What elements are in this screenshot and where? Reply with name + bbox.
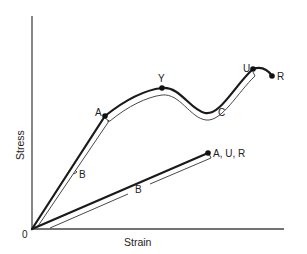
- label-b-brittle: B: [135, 184, 142, 195]
- label-a: A: [95, 107, 102, 118]
- x-axis-label: Strain: [124, 236, 152, 248]
- bracket-b-elastic: [38, 118, 109, 226]
- point-r: [269, 73, 275, 79]
- label-b-elastic: B: [79, 169, 86, 180]
- point-aur: [205, 150, 211, 156]
- label-c: C: [218, 107, 225, 118]
- label-r: R: [277, 71, 284, 82]
- label-aur: A, U, R: [213, 148, 245, 159]
- point-u: [250, 66, 256, 72]
- label-u: U: [243, 63, 250, 74]
- brittle-curve: [32, 150, 211, 229]
- brittle-curve-path: [32, 153, 208, 229]
- origin-label: 0: [22, 229, 28, 240]
- point-a: [102, 113, 108, 119]
- label-y: Y: [158, 73, 165, 84]
- point-y: [159, 85, 165, 91]
- stress-strain-diagram: A Y U R A, U, R B B C 0 Strain Stress: [0, 0, 307, 254]
- axes: [32, 16, 284, 229]
- y-axis-label: Stress: [14, 130, 26, 160]
